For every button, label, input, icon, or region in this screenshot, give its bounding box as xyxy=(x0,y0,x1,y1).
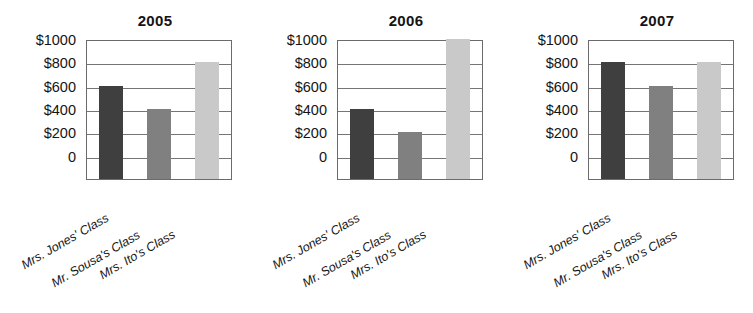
chart-title: 2006 xyxy=(321,12,491,29)
y-tick-label: $1000 xyxy=(287,33,327,48)
bar-sousa xyxy=(147,109,171,179)
y-tick-label: $400 xyxy=(44,103,76,118)
bar-group xyxy=(87,41,231,179)
x-axis-labels: Mrs. Jones' ClassMr. Sousa's ClassMrs. I… xyxy=(0,180,251,300)
chart-panel-2006: 2006$1000$800$600$400$2000Mrs. Jones' Cl… xyxy=(251,0,502,313)
chart-title: 2005 xyxy=(70,12,240,29)
bar-slot xyxy=(398,41,422,179)
y-axis-labels: $1000$800$600$400$2000 xyxy=(0,32,80,192)
bar-slot xyxy=(350,41,374,179)
y-tick-label: $1000 xyxy=(538,33,578,48)
bar-slot xyxy=(195,41,219,179)
y-tick-label: $1000 xyxy=(36,33,76,48)
plot-area xyxy=(337,40,483,180)
bar-chart-figure: 2005$1000$800$600$400$2000Mrs. Jones' Cl… xyxy=(0,0,753,313)
bar-ito xyxy=(195,62,219,179)
y-tick-label: $600 xyxy=(546,80,578,95)
y-tick-label: $400 xyxy=(295,103,327,118)
y-tick-label: $800 xyxy=(295,56,327,71)
y-tick-label: $800 xyxy=(44,56,76,71)
chart-panel-2005: 2005$1000$800$600$400$2000Mrs. Jones' Cl… xyxy=(0,0,251,313)
bar-slot xyxy=(147,41,171,179)
bar-slot xyxy=(649,41,673,179)
x-axis-labels: Mrs. Jones' ClassMr. Sousa's ClassMrs. I… xyxy=(251,180,502,300)
y-tick-label: $200 xyxy=(44,126,76,141)
chart-title: 2007 xyxy=(572,12,742,29)
bar-ito xyxy=(446,39,470,179)
y-tick-label: $200 xyxy=(295,126,327,141)
chart-panel-2007: 2007$1000$800$600$400$2000Mrs. Jones' Cl… xyxy=(502,0,753,313)
bar-sousa xyxy=(649,86,673,179)
bar-slot xyxy=(99,41,123,179)
plot-area xyxy=(588,40,734,180)
y-tick-label: 0 xyxy=(319,150,327,165)
bar-jones xyxy=(350,109,374,179)
bar-slot xyxy=(601,41,625,179)
bar-slot xyxy=(446,41,470,179)
x-axis-labels: Mrs. Jones' ClassMr. Sousa's ClassMrs. I… xyxy=(502,180,753,300)
bar-sousa xyxy=(398,132,422,179)
y-tick-label: $200 xyxy=(546,126,578,141)
bar-jones xyxy=(601,62,625,179)
bar-ito xyxy=(697,62,721,179)
y-axis-labels: $1000$800$600$400$2000 xyxy=(251,32,331,192)
plot-area xyxy=(86,40,232,180)
y-tick-label: $600 xyxy=(295,80,327,95)
y-tick-label: 0 xyxy=(570,150,578,165)
y-tick-label: 0 xyxy=(68,150,76,165)
y-tick-label: $400 xyxy=(546,103,578,118)
bar-jones xyxy=(99,86,123,179)
bar-slot xyxy=(697,41,721,179)
bar-group xyxy=(589,41,733,179)
bar-group xyxy=(338,41,482,179)
y-tick-label: $800 xyxy=(546,56,578,71)
y-axis-labels: $1000$800$600$400$2000 xyxy=(502,32,582,192)
y-tick-label: $600 xyxy=(44,80,76,95)
